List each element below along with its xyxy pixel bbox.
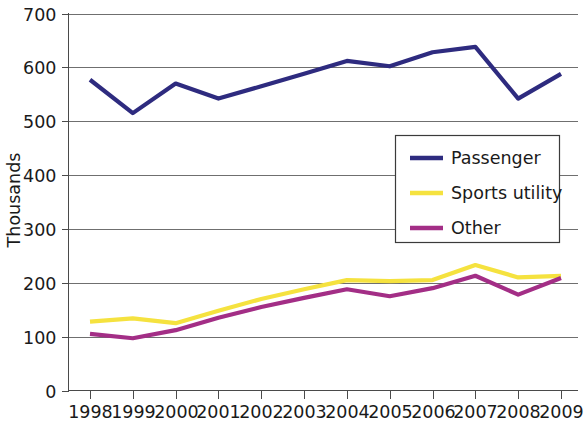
legend-label-sports-utility: Sports utility — [451, 183, 562, 203]
y-tick-label-0: 0 — [45, 382, 56, 402]
x-tick-label-2008: 2008 — [496, 402, 541, 422]
y-tick-label-700: 700 — [23, 5, 56, 25]
x-tick-label-1999: 1999 — [111, 402, 156, 422]
x-tick-label-2006: 2006 — [411, 402, 456, 422]
y-tick-label-400: 400 — [23, 166, 56, 186]
chart-canvas: 0100200300400500600700 19981999200020012… — [0, 0, 586, 424]
line-chart-figure: 0100200300400500600700 19981999200020012… — [0, 0, 586, 424]
legend-label-passenger: Passenger — [451, 148, 541, 168]
x-tick-label-1998: 1998 — [68, 402, 113, 422]
y-tick-label-100: 100 — [23, 328, 56, 348]
x-tick-label-2009: 2009 — [539, 402, 584, 422]
y-tick-label-600: 600 — [23, 58, 56, 78]
x-tick-label-2004: 2004 — [325, 402, 370, 422]
x-tick-label-2007: 2007 — [453, 402, 498, 422]
x-tick-label-2002: 2002 — [239, 402, 284, 422]
legend-label-other: Other — [451, 218, 501, 238]
x-tick-label-2003: 2003 — [282, 402, 327, 422]
x-tick-label-2000: 2000 — [154, 402, 199, 422]
x-tick-label-2001: 2001 — [196, 402, 241, 422]
y-tick-label-300: 300 — [23, 220, 56, 240]
y-axis-title: Thousands — [4, 153, 24, 249]
chart-legend: PassengerSports utilityOther — [396, 136, 563, 243]
x-tick-label-2005: 2005 — [368, 402, 413, 422]
x-tick-labels: 1998199920002001200220032004200520062007… — [68, 402, 584, 422]
y-tick-label-200: 200 — [23, 274, 56, 294]
y-tick-label-500: 500 — [23, 112, 56, 132]
